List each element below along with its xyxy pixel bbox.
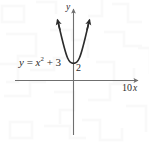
x-axis-name-label: x <box>133 83 137 93</box>
parabola-figure: y = x2 + 3 y 10x 2 <box>0 0 149 142</box>
parabola-left-arrow <box>57 20 60 30</box>
x-axis-label: 10x <box>122 83 137 94</box>
equation-equals: = <box>24 56 36 68</box>
parabola-right-arrow <box>87 20 90 30</box>
x-axis-tick-label: 10 <box>122 82 132 93</box>
graph-canvas <box>0 0 149 142</box>
y-axis-label: y <box>66 3 70 13</box>
equation-tail: + 3 <box>44 56 61 68</box>
curve-equation-label: y = x2 + 3 <box>19 57 61 68</box>
vertex-value-label: 2 <box>76 63 81 73</box>
